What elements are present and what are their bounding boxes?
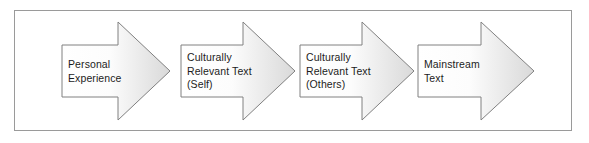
diagram-canvas: Personal Experience Culturally Relevant … [0,0,589,143]
process-step-label-4: Mainstream Text [424,58,480,85]
process-step-label-3: Culturally Relevant Text (Others) [306,51,371,92]
process-step-label-2: Culturally Relevant Text (Self) [187,51,252,92]
process-step-label-1: Personal Experience [68,58,122,85]
